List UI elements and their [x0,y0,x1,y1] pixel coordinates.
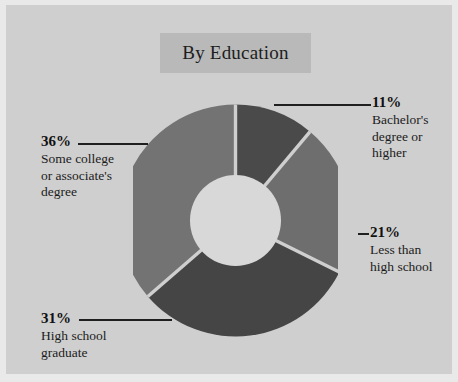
callout-bachelors-line2: degree or [372,129,458,145]
callout-bachelors-line1: Bachelor's [372,112,458,128]
callout-less-than-high-school-line1: Less than [370,242,458,258]
leader-line-less-than-high-school [358,233,369,235]
callout-some-college-percent: 36% [41,133,176,150]
donut-hole [190,175,281,266]
page-title: By Education [182,42,288,64]
title-banner: By Education [160,33,311,73]
callout-less-than-high-school: 21% Less than high school [370,224,458,274]
callout-some-college-line3: degree [41,184,176,200]
chart-page: By Education [0,0,458,382]
callout-bachelors-line3: higher [372,145,458,161]
callout-bachelors: 11% Bachelor's degree or higher [372,94,458,161]
callout-some-college-line1: Some college [41,151,176,167]
callout-high-school-graduate-percent: 31% [41,310,171,327]
callout-high-school-graduate: 31% High school graduate [41,310,171,360]
callout-some-college-line2: or associate's [41,168,176,184]
callout-less-than-high-school-line2: high school [370,259,458,275]
callout-some-college: 36% Some college or associate's degree [41,133,176,200]
chart-panel: By Education [6,5,452,374]
callout-high-school-graduate-line2: graduate [41,345,171,361]
callout-bachelors-percent: 11% [372,94,458,111]
callout-less-than-high-school-percent: 21% [370,224,458,241]
leader-line-bachelors [274,104,371,106]
callout-high-school-graduate-line1: High school [41,328,171,344]
